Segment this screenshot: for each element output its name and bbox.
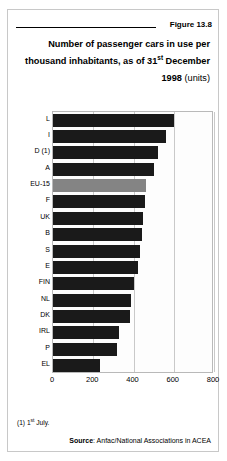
y-axis-label-b: B [45, 229, 50, 236]
bar-el [53, 359, 100, 372]
footnote: (1) 1st July. [17, 419, 49, 426]
bar-p [53, 343, 117, 356]
bar-row: IRL [53, 325, 212, 341]
y-axis-label-eu-15: EU-15 [30, 180, 50, 187]
bar-row: EL [53, 358, 212, 374]
bar-row: B [53, 227, 212, 243]
title-year: 1998 [161, 73, 181, 83]
x-tick-label-400: 400 [126, 375, 139, 384]
bar-a [53, 163, 154, 176]
x-tick-label-800: 800 [207, 375, 220, 384]
bar-row: FIN [53, 276, 212, 292]
chart-title: Number of passenger cars in use per thou… [18, 36, 210, 87]
y-axis-label-s: S [45, 246, 50, 253]
figure-number: Figure 13.8 [170, 20, 212, 29]
x-axis: 0200400600800 [52, 375, 213, 387]
bar-fin [53, 277, 134, 290]
y-axis-label-nl: NL [41, 295, 50, 302]
figure-container: Figure 13.8 Number of passenger cars in … [7, 9, 219, 452]
y-axis-label-l: L [46, 115, 50, 122]
horizontal-rule [16, 27, 156, 28]
bar-e [53, 261, 138, 274]
bar-l [53, 114, 174, 127]
bar-irl [53, 326, 119, 339]
bar-row: NL [53, 292, 212, 308]
bar-row: F [53, 194, 212, 210]
bar-row: UK [53, 210, 212, 226]
title-line-2: thousand inhabitants, as of 31st Decembe… [18, 53, 210, 70]
bar-row: I [53, 128, 212, 144]
title-units: (units) [182, 73, 210, 83]
gridline-800 [214, 112, 215, 372]
bar-i [53, 130, 166, 143]
y-axis-label-fin: FIN [39, 278, 50, 285]
bar-d-1 [53, 146, 158, 159]
y-axis-label-irl: IRL [39, 327, 50, 334]
bar-s [53, 245, 140, 258]
source-note: Source: Anfac/National Associations in A… [16, 437, 211, 444]
title-line-1: Number of passenger cars in use per [18, 36, 210, 53]
title-line-2-text: thousand inhabitants, as of 31 [25, 56, 157, 66]
bar-row: A [53, 161, 212, 177]
bar-row: EU-15 [53, 178, 212, 194]
source-text: : Anfac/National Associations in ACEA [93, 437, 211, 444]
x-tick-label-0: 0 [50, 375, 54, 384]
y-axis-label-f: F [46, 196, 50, 203]
figure-header: Figure 13.8 [16, 22, 212, 33]
y-axis-label-el: EL [41, 360, 50, 367]
bar-rows: LID (1)AEU-15FUKBSEFINNLDKIRLPEL [53, 112, 212, 372]
bar-row: E [53, 259, 212, 275]
x-tick-label-200: 200 [86, 375, 99, 384]
source-label: Source [69, 437, 93, 444]
x-tick-label-600: 600 [166, 375, 179, 384]
footnote-text: July. [34, 419, 49, 426]
bar-row: D (1) [53, 145, 212, 161]
y-axis-label-uk: UK [40, 213, 50, 220]
bar-row: P [53, 341, 212, 357]
bar-dk [53, 310, 130, 323]
bar-b [53, 228, 142, 241]
bar-row: L [53, 112, 212, 128]
title-line-2-tail: December [163, 56, 210, 66]
y-axis-label-p: P [45, 344, 50, 351]
bar-nl [53, 294, 131, 307]
bar-row: DK [53, 309, 212, 325]
title-line-3: 1998 (units) [18, 70, 210, 87]
y-axis-label-d-1: D (1) [34, 147, 50, 154]
bar-uk [53, 212, 143, 225]
plot-area: LID (1)AEU-15FUKBSEFINNLDKIRLPEL [52, 111, 213, 373]
y-axis-label-a: A [45, 164, 50, 171]
footnote-marker: (1) 1 [17, 419, 31, 426]
y-axis-label-i: I [48, 131, 50, 138]
bar-eu-15 [53, 179, 146, 192]
bar-row: S [53, 243, 212, 259]
y-axis-label-e: E [45, 262, 50, 269]
bar-f [53, 195, 145, 208]
y-axis-label-dk: DK [40, 311, 50, 318]
